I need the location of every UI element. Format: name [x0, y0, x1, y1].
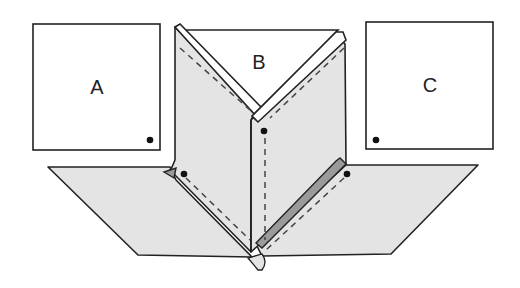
panel-a-label: A	[90, 76, 104, 98]
center-dot-top	[261, 128, 268, 135]
panel-a: A	[33, 24, 160, 150]
panel-b-label: B	[252, 51, 265, 73]
panel-c-dot	[373, 137, 380, 144]
panel-a-dot	[147, 137, 154, 144]
panel-c-label: C	[423, 74, 437, 96]
panel-c: C	[366, 22, 493, 149]
folding-diagram: A C B	[0, 0, 520, 288]
center-dot-right	[344, 171, 351, 178]
center-dot-left	[181, 171, 188, 178]
